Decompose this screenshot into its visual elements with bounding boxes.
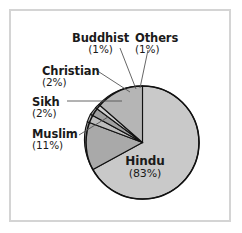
pie-label-muslim: Muslim (11%) <box>32 128 78 152</box>
leader-line-christian <box>96 70 130 92</box>
pie-chart-figure: Buddhist (1%) Others (1%) Christian (2%)… <box>0 0 242 233</box>
pie-label-hindu: Hindu (83%) <box>110 155 180 180</box>
pie-label-muslim-pct: (11%) <box>32 140 78 151</box>
pie-label-buddhist-pct: (1%) <box>72 44 129 55</box>
pie-label-sikh-pct: (2%) <box>32 108 60 119</box>
pie-label-hindu-name: Hindu <box>110 155 180 168</box>
pie-label-sikh: Sikh (2%) <box>32 96 60 120</box>
pie-label-christian-pct: (2%) <box>42 77 100 88</box>
pie-label-others-pct: (1%) <box>135 44 178 55</box>
pie-label-buddhist: Buddhist (1%) <box>72 32 129 56</box>
pie-label-others: Others (1%) <box>135 32 178 56</box>
pie-label-christian: Christian (2%) <box>42 65 100 89</box>
pie-label-hindu-pct: (83%) <box>110 168 180 180</box>
